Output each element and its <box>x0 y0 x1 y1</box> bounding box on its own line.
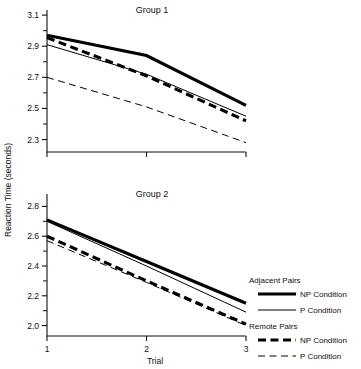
legend-label: P Condition <box>300 306 341 315</box>
x-tick-label: 1 <box>45 344 50 354</box>
y-tick-label: 2.2 <box>27 291 39 301</box>
series-line-adj-p <box>47 221 246 312</box>
legend-label: NP Condition <box>300 290 347 299</box>
panel-title: Group 2 <box>136 189 169 199</box>
reaction-time-line-chart: Reaction Time (seconds) Trial 2.32.52.72… <box>0 0 361 369</box>
series-line-rem-p <box>47 77 246 142</box>
series-line-adj-np <box>47 220 246 303</box>
series-line-rem-np <box>47 236 246 324</box>
x-axis-title: Trial <box>147 356 163 366</box>
panel-group-2: 2.02.22.42.62.8123Group 2 <box>27 189 248 354</box>
y-tick-label: 2.0 <box>27 321 39 331</box>
legend-label: NP Condition <box>300 336 347 345</box>
panel-title: Group 1 <box>136 5 169 15</box>
chart-figure: Reaction Time (seconds) Trial 2.32.52.72… <box>0 0 361 369</box>
y-tick-label: 2.6 <box>27 231 39 241</box>
series-line-rem-np <box>47 38 246 121</box>
y-tick-label: 2.5 <box>27 103 39 113</box>
y-tick-label: 2.4 <box>27 261 39 271</box>
y-tick-label: 3.1 <box>27 10 39 20</box>
legend-label: P Condition <box>300 352 341 361</box>
chart-legend: Adjacent PairsNP ConditionP ConditionRem… <box>249 276 347 361</box>
panel-axis-frame <box>47 10 246 152</box>
legend-heading: Adjacent Pairs <box>249 276 301 285</box>
x-tick-label: 3 <box>244 344 249 354</box>
series-line-adj-np <box>47 35 246 105</box>
y-axis-title: Reaction Time (seconds) <box>3 143 13 237</box>
series-line-rem-p <box>47 241 246 326</box>
y-tick-label: 2.7 <box>27 72 39 82</box>
y-tick-label: 2.3 <box>27 135 39 145</box>
y-tick-label: 2.9 <box>27 41 39 51</box>
panel-group-1: 2.32.52.72.93.1Group 1 <box>27 5 246 157</box>
y-tick-label: 2.8 <box>27 201 39 211</box>
x-tick-label: 2 <box>144 344 149 354</box>
panel-axis-frame <box>47 194 246 336</box>
legend-heading: Remote Pairs <box>249 322 297 331</box>
